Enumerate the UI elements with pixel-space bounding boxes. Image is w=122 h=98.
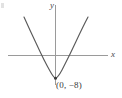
parabola-figure: y x (0, −8) [0, 0, 122, 98]
vertex-coordinate-label: (0, −8) [56, 81, 82, 90]
x-axis-label: x [111, 50, 115, 59]
y-axis-label: y [50, 1, 54, 10]
